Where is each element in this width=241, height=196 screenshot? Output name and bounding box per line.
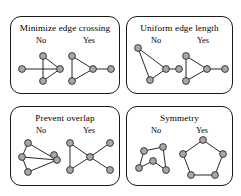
graph-node xyxy=(160,144,167,151)
graph-node xyxy=(135,45,142,52)
choice-label-no: No xyxy=(25,126,57,135)
graph-node xyxy=(147,77,154,84)
choice-label-yes: Yes xyxy=(73,126,105,135)
panel-title: Uniform edge length xyxy=(127,23,232,33)
graph-node xyxy=(220,151,227,158)
panel-prevent-overlap: Prevent overlap No Yes xyxy=(10,106,120,186)
graph-node xyxy=(40,78,47,85)
panel-symmetry: Symmetry No Yes xyxy=(126,106,233,186)
graph-node xyxy=(222,66,229,73)
panel-minimize-edge-crossing: Minimize edge crossing No Yes xyxy=(10,16,120,94)
panel-title: Minimize edge crossing xyxy=(11,23,119,33)
graph-node xyxy=(183,78,190,85)
graph-node xyxy=(163,167,170,174)
graph-node xyxy=(204,66,211,73)
graph-node xyxy=(19,66,26,73)
choice-label-yes: Yes xyxy=(186,126,218,135)
graph-node xyxy=(25,169,32,176)
graph-yes xyxy=(67,50,117,90)
choice-label-no: No xyxy=(140,36,172,45)
graph-node xyxy=(150,158,157,165)
panel-title: Symmetry xyxy=(127,113,232,123)
graph-yes xyxy=(181,50,231,90)
graph-node xyxy=(67,167,74,174)
aesthetic-criteria-figure: Minimize edge crossing No Yes xyxy=(0,0,241,196)
graph-no xyxy=(136,144,176,178)
graph-node xyxy=(67,140,74,147)
choice-label-no: No xyxy=(140,126,172,135)
graph-node xyxy=(141,148,148,155)
graph-node xyxy=(25,140,32,147)
graph-node xyxy=(183,53,190,60)
graph-node xyxy=(200,137,207,144)
choice-label-no: No xyxy=(25,36,57,45)
graph-node xyxy=(69,53,76,60)
graph-node xyxy=(163,66,170,73)
graph-node xyxy=(136,165,143,172)
graph-no xyxy=(133,45,185,89)
graph-no xyxy=(18,50,68,90)
graph-node xyxy=(87,154,94,161)
choice-label-yes: Yes xyxy=(73,36,105,45)
graph-no xyxy=(19,139,67,181)
graph-node xyxy=(107,167,114,174)
graph-node xyxy=(212,172,219,179)
choice-label-yes: Yes xyxy=(187,36,219,45)
graph-node xyxy=(19,154,26,161)
graph-yes xyxy=(66,138,118,180)
graph-node xyxy=(57,66,64,73)
graph-node xyxy=(107,140,114,147)
graph-node xyxy=(180,151,187,158)
graph-node-overlapping xyxy=(54,157,61,164)
graph-node xyxy=(40,53,47,60)
panel-title: Prevent overlap xyxy=(11,113,119,123)
graph-node xyxy=(90,66,97,73)
graph-node xyxy=(188,172,195,179)
graph-yes xyxy=(181,138,229,182)
graph-node xyxy=(108,66,115,73)
panel-uniform-edge-length: Uniform edge length No Yes xyxy=(126,16,233,94)
graph-node xyxy=(69,78,76,85)
